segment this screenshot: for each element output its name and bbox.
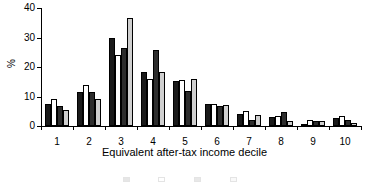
y-tick-mark [37, 67, 41, 68]
legend-swatch [158, 177, 165, 182]
bar-series-4-decile-9 [319, 121, 325, 126]
x-tick-mark [265, 126, 266, 130]
y-tick-mark [37, 38, 41, 39]
legend-swatch [230, 177, 237, 182]
bar-series-4-decile-8 [287, 121, 293, 126]
y-tick: 20 [41, 67, 42, 68]
legend-item [158, 174, 186, 184]
plot-area: 010203040 12345678910 [41, 8, 361, 126]
legend-label [204, 174, 222, 184]
legend-swatch [194, 177, 201, 182]
legend-item [123, 174, 151, 184]
x-tick-mark [137, 126, 138, 130]
x-tick-mark [73, 126, 74, 130]
y-tick-label: 30 [5, 32, 35, 43]
chart-container: % 010203040 12345678910 Equivalent after… [0, 0, 369, 184]
bar-series-4-decile-7 [255, 115, 261, 126]
y-tick-label: 20 [5, 61, 35, 72]
y-tick-mark [37, 8, 41, 9]
bar-series-4-decile-1 [63, 110, 69, 126]
bar-series-4-decile-4 [159, 72, 165, 126]
x-axis-title: Equivalent after-tax income decile [0, 146, 369, 158]
x-tick-mark [329, 126, 330, 130]
x-tick-mark [105, 126, 106, 130]
x-tick-mark [233, 126, 234, 130]
y-tick: 40 [41, 8, 42, 9]
bar-series-4-decile-3 [127, 18, 133, 126]
x-tick-mark [41, 126, 42, 130]
y-tick: 30 [41, 38, 42, 39]
legend-label [133, 174, 151, 184]
x-tick-mark [297, 126, 298, 130]
bar-series-4-decile-5 [191, 79, 197, 126]
legend-item [194, 174, 222, 184]
legend-swatch [123, 177, 130, 182]
bar-series-4-decile-10 [351, 123, 357, 126]
x-tick-mark [201, 126, 202, 130]
legend-label [168, 174, 186, 184]
y-tick: 10 [41, 97, 42, 98]
legend-label [240, 174, 258, 184]
x-tick-mark [169, 126, 170, 130]
chart-legend [70, 174, 310, 184]
bar-series-4-decile-6 [223, 105, 229, 126]
bar-series-4-decile-2 [95, 99, 101, 126]
y-tick-label: 40 [5, 2, 35, 13]
x-tick-mark [361, 126, 362, 130]
y-tick-mark [37, 97, 41, 98]
y-tick-label: 0 [5, 120, 35, 131]
legend-item [230, 174, 258, 184]
y-tick-label: 10 [5, 91, 35, 102]
